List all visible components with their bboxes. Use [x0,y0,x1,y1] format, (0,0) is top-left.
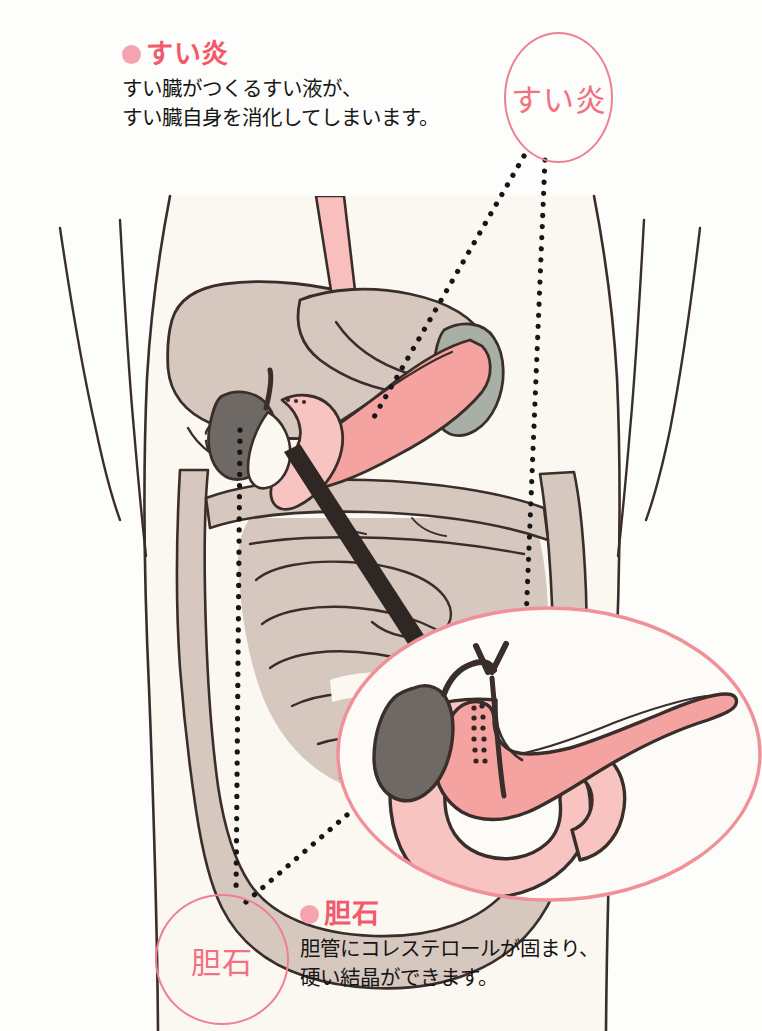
callout-pancreatitis-line-1: すい臓がつくるすい液が、 [122,74,439,103]
bullet-dot-icon [122,45,141,64]
label-bubble-gallstone: 胆石 [155,894,289,1025]
label-bubble-pancreatitis: すい炎 [504,32,613,163]
callout-pancreatitis-line-2: すい臓自身を消化してしまいます。 [122,103,439,132]
callout-gallstone-title: 胆石 [324,900,379,930]
callout-pancreatitis-heading: すい炎 [122,40,439,70]
callout-gallstone-heading: 胆石 [300,900,599,930]
callout-gallstone-body: 胆管にコレステロールが固まり、 硬い結晶ができます。 [300,934,599,992]
bullet-dot-icon [300,905,319,924]
label-bubble-gallstone-text: 胆石 [191,938,253,982]
callout-gallstone-line-1: 胆管にコレステロールが固まり、 [300,934,599,963]
callout-gallstone: 胆石 胆管にコレステロールが固まり、 硬い結晶ができます。 [300,900,599,992]
callout-pancreatitis-body: すい臓がつくるすい液が、 すい臓自身を消化してしまいます。 [122,74,439,132]
label-bubble-pancreatitis-text: すい炎 [511,75,607,120]
callout-pancreatitis: すい炎 すい臓がつくるすい液が、 すい臓自身を消化してしまいます。 [122,40,439,132]
anatomy-illustration [0,0,762,1031]
callout-pancreatitis-title: すい炎 [146,40,229,70]
callout-gallstone-line-2: 硬い結晶ができます。 [300,963,599,992]
magnifier-inset [338,608,760,900]
illustration-page: すい炎 すい臓がつくるすい液が、 すい臓自身を消化してしまいます。 胆石 胆管に… [0,0,762,1031]
